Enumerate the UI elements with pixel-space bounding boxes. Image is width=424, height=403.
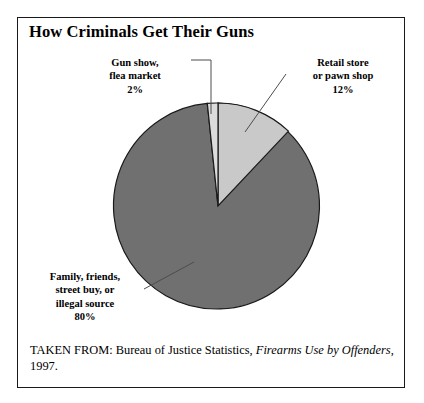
callout-label-family-friends: Family, friends, street buy, or illegal … (26, 270, 144, 324)
source-prefix: TAKEN FROM: Bureau of Justice Statistics… (30, 343, 253, 357)
callout-family-line3: illegal source (26, 297, 144, 310)
callout-gun-show-value: 2% (82, 83, 188, 96)
callout-family-line1: Family, friends, (26, 270, 144, 283)
callout-family-line2: street buy, or (26, 283, 144, 296)
callout-label-retail-store: Retail store or pawn shop 12% (290, 56, 396, 96)
callout-gun-show-line1: Gun show, (82, 56, 188, 69)
callout-label-gun-show: Gun show, flea market 2% (82, 56, 188, 96)
callout-gun-show-line2: flea market (82, 69, 188, 82)
callout-retail-line2: or pawn shop (290, 69, 396, 82)
figure-frame: How Criminals Get Their Guns Gun show, f… (17, 17, 405, 388)
callout-retail-value: 12% (290, 83, 396, 96)
callout-family-value: 80% (26, 310, 144, 323)
callout-retail-line1: Retail store (290, 56, 396, 69)
pie-chart: Gun show, flea market 2% Retail store or… (18, 18, 406, 389)
source-title-italic: Firearms Use by Offenders (256, 343, 391, 357)
source-attribution: TAKEN FROM: Bureau of Justice Statistics… (30, 342, 396, 375)
